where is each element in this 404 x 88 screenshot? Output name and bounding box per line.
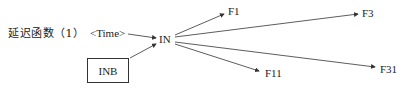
diagram-title: 延迟函数（1） xyxy=(8,24,85,40)
node-f3: F3 xyxy=(362,8,374,19)
node-f11: F11 xyxy=(265,68,282,79)
node-f1: F1 xyxy=(228,6,240,17)
edge-in-f11 xyxy=(175,44,259,71)
node-inb-label: INB xyxy=(99,65,118,77)
node-time: <Time> xyxy=(90,28,125,39)
diagram-edges xyxy=(0,0,404,88)
node-in: IN xyxy=(159,34,171,45)
node-f31: F31 xyxy=(380,64,397,75)
edge-time-in xyxy=(128,34,156,38)
node-inb: INB xyxy=(87,58,129,83)
edge-inb-in xyxy=(130,44,156,58)
edge-in-f31 xyxy=(175,42,375,67)
edge-in-f3 xyxy=(175,14,358,37)
